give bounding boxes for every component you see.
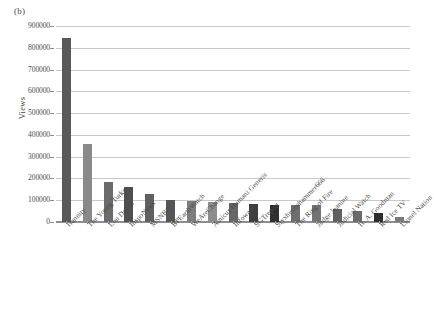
bar-series <box>56 26 410 222</box>
panel-label: (b) <box>14 6 25 16</box>
y-tick-label: 900000 <box>28 21 50 30</box>
bar <box>62 38 71 222</box>
y-tick-mark <box>50 70 54 71</box>
y-tick-mark <box>50 113 54 114</box>
y-tick-label: 600000 <box>28 86 50 95</box>
y-tick-mark <box>50 26 54 27</box>
y-tick-label: 700000 <box>28 65 50 74</box>
y-tick-label: 400000 <box>28 130 50 139</box>
y-tick-mark <box>50 178 54 179</box>
y-tick-label: 100000 <box>28 195 50 204</box>
y-tick-mark <box>50 222 54 223</box>
x-axis-labels: HannityThe Young TurksLou DobbsInspoNews… <box>56 223 410 311</box>
y-tick-label: 800000 <box>28 43 50 52</box>
y-tick-mark <box>50 157 54 158</box>
y-tick-mark <box>50 91 54 92</box>
y-tick-label: 200000 <box>28 173 50 182</box>
y-tick-label: 500000 <box>28 108 50 117</box>
y-tick-mark <box>50 48 54 49</box>
y-tick-mark <box>50 200 54 201</box>
y-tick-label: 300000 <box>28 152 50 161</box>
y-axis-title: Views <box>17 78 27 138</box>
y-tick-mark <box>50 135 54 136</box>
